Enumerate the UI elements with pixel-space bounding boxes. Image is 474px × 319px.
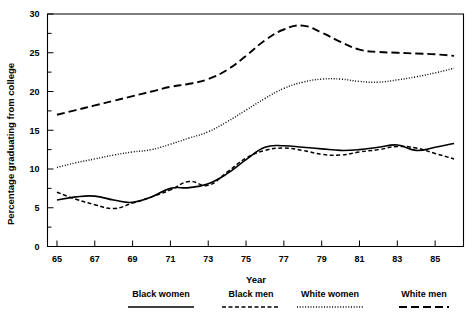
x-tick-label: 71	[165, 254, 175, 264]
chart-container: Percentage graduating from college Year …	[0, 0, 474, 319]
x-axis-title: Year	[246, 274, 266, 285]
data-series-group	[57, 25, 454, 208]
line-chart: Percentage graduating from college Year …	[0, 0, 474, 319]
y-tick-label: 15	[29, 126, 39, 136]
series-line-white-men	[57, 25, 454, 114]
legend-label: Black women	[132, 289, 190, 299]
y-tick-label: 5	[34, 203, 39, 213]
x-tick-label: 69	[128, 254, 138, 264]
legend-label: Black men	[228, 289, 273, 299]
y-axis-tick-labels: 051015202530	[29, 9, 39, 252]
legend-label: White women	[301, 289, 359, 299]
x-tick-label: 81	[354, 254, 364, 264]
x-tick-label: 65	[52, 254, 62, 264]
legend-item-black-men: Black men	[222, 289, 280, 307]
chart-legend: Black womenBlack menWhite womenWhite men	[128, 289, 449, 307]
x-axis-tick-labels: 6567697173757779818385	[52, 254, 440, 264]
x-tick-label: 75	[241, 254, 251, 264]
legend-label: White men	[401, 289, 447, 299]
y-tick-label: 20	[29, 87, 39, 97]
y-tick-label: 30	[29, 9, 39, 19]
y-tick-label: 10	[29, 164, 39, 174]
x-tick-label: 77	[279, 254, 289, 264]
legend-item-white-men: White men	[399, 289, 449, 307]
series-line-black-women	[57, 143, 454, 202]
y-tick-label: 25	[29, 48, 39, 58]
x-tick-label: 73	[203, 254, 213, 264]
legend-item-white-women: White women	[297, 289, 363, 307]
series-line-black-men	[57, 146, 454, 208]
y-axis-title: Percentage graduating from college	[5, 63, 16, 225]
axis-tick-marks	[48, 14, 436, 247]
y-tick-label: 0	[34, 242, 39, 252]
x-tick-label: 83	[392, 254, 402, 264]
x-tick-label: 79	[317, 254, 327, 264]
legend-item-black-women: Black women	[128, 289, 194, 307]
x-tick-label: 85	[430, 254, 440, 264]
x-tick-label: 67	[90, 254, 100, 264]
